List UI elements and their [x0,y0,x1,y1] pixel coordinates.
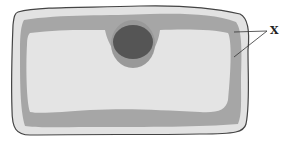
plant-cell-diagram [0,0,289,142]
label-x: X [270,24,279,37]
nucleus [113,25,153,59]
